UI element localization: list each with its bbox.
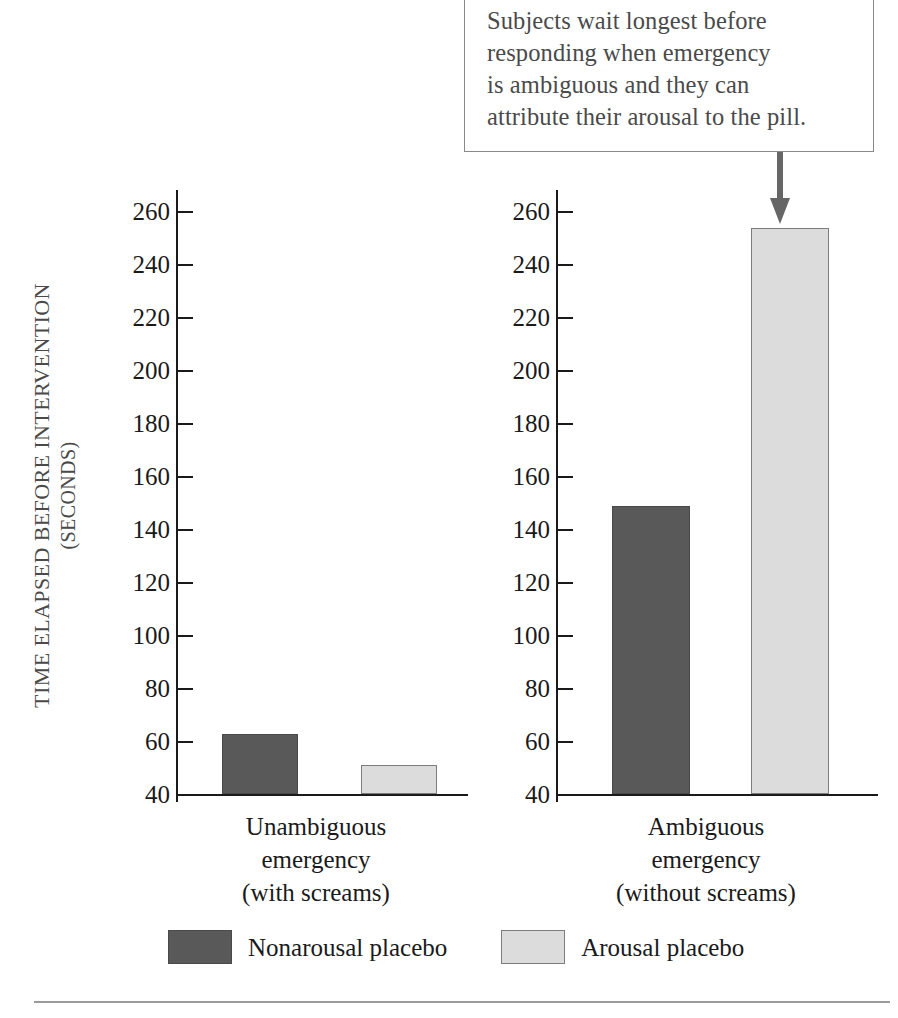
y-axis-spine-right [556, 190, 558, 802]
y-tick-label-left-100: 100 [108, 623, 170, 648]
y-tick-label-right-180: 180 [488, 411, 550, 436]
y-tick-left-60 [178, 741, 193, 743]
y-tick-label-right-120: 120 [488, 570, 550, 595]
y-axis-title-units: (SECONDS) [57, 216, 80, 776]
x-axis-baseline-left [176, 794, 468, 796]
x-category-line-2: emergency [166, 843, 466, 876]
chart-legend: Nonarousal placebo Arousal placebo [168, 930, 744, 964]
legend-swatch-arousal-placebo [501, 930, 565, 964]
legend-swatch-nonarousal-placebo [168, 930, 232, 964]
x-category-line-1: Ambiguous [556, 810, 856, 843]
y-axis-title-main: TIME ELAPSED BEFORE INTERVENTION [29, 216, 55, 776]
y-tick-left-160 [178, 476, 193, 478]
y-tick-right-60 [558, 741, 573, 743]
y-tick-right-180 [558, 423, 573, 425]
y-tick-right-200 [558, 370, 573, 372]
y-tick-label-right-60: 60 [488, 729, 550, 754]
x-category-line-2: emergency [556, 843, 856, 876]
y-tick-right-240 [558, 264, 573, 266]
y-axis-spine-left [176, 190, 178, 802]
chart-panel-ambiguous: 260 240 220 200 180 160 140 120 100 80 6… [488, 185, 878, 805]
y-tick-right-160 [558, 476, 573, 478]
x-category-line-3: (with screams) [166, 876, 466, 909]
y-tick-label-left-80: 80 [108, 676, 170, 701]
y-tick-left-100 [178, 635, 193, 637]
legend-label-arousal-placebo: Arousal placebo [581, 935, 744, 960]
y-tick-label-left-140: 140 [108, 517, 170, 542]
y-tick-label-right-160: 160 [488, 464, 550, 489]
annotation-line-2: responding when emergency [487, 37, 857, 69]
y-tick-label-left-260: 260 [108, 199, 170, 224]
bar-ambiguous-nonarousal-placebo [612, 506, 690, 794]
x-axis-baseline-right [556, 794, 878, 796]
y-tick-label-left-40: 40 [108, 782, 170, 807]
y-tick-right-80 [558, 688, 573, 690]
y-tick-left-80 [178, 688, 193, 690]
y-tick-label-left-200: 200 [108, 358, 170, 383]
legend-item-nonarousal-placebo: Nonarousal placebo [168, 930, 447, 964]
annotation-line-3: is ambiguous and they can [487, 69, 857, 101]
y-tick-right-100 [558, 635, 573, 637]
y-tick-label-left-180: 180 [108, 411, 170, 436]
y-tick-left-180 [178, 423, 193, 425]
bar-ambiguous-arousal-placebo [751, 228, 829, 794]
y-tick-right-140 [558, 529, 573, 531]
x-category-label-unambiguous: Unambiguous emergency (with screams) [166, 810, 466, 909]
y-tick-label-left-220: 220 [108, 305, 170, 330]
y-tick-left-140 [178, 529, 193, 531]
y-tick-label-right-260: 260 [488, 199, 550, 224]
legend-item-arousal-placebo: Arousal placebo [501, 930, 744, 964]
x-category-line-3: (without screams) [556, 876, 856, 909]
y-tick-right-220 [558, 317, 573, 319]
y-tick-label-right-40: 40 [488, 782, 550, 807]
y-tick-label-left-160: 160 [108, 464, 170, 489]
x-category-line-1: Unambiguous [166, 810, 466, 843]
footer-divider [34, 1001, 890, 1003]
y-tick-left-260 [178, 211, 193, 213]
y-tick-left-120 [178, 582, 193, 584]
annotation-callout-box: Subjects wait longest before responding … [464, 0, 874, 152]
y-tick-left-200 [178, 370, 193, 372]
y-tick-label-right-220: 220 [488, 305, 550, 330]
y-tick-label-left-120: 120 [108, 570, 170, 595]
annotation-line-1: Subjects wait longest before [487, 5, 857, 37]
y-tick-label-right-100: 100 [488, 623, 550, 648]
y-tick-label-right-200: 200 [488, 358, 550, 383]
y-tick-label-left-240: 240 [108, 252, 170, 277]
y-tick-left-220 [178, 317, 193, 319]
y-tick-right-260 [558, 211, 573, 213]
y-tick-label-right-80: 80 [488, 676, 550, 701]
y-tick-label-right-240: 240 [488, 252, 550, 277]
x-category-label-ambiguous: Ambiguous emergency (without screams) [556, 810, 856, 909]
y-tick-right-120 [558, 582, 573, 584]
chart-panel-unambiguous: 260 240 220 200 180 160 140 120 100 80 6… [108, 185, 468, 805]
y-axis-title: TIME ELAPSED BEFORE INTERVENTION (SECOND… [29, 216, 80, 776]
bar-unambiguous-arousal-placebo [361, 765, 437, 794]
legend-label-nonarousal-placebo: Nonarousal placebo [248, 935, 447, 960]
annotation-line-4: attribute their arousal to the pill. [487, 101, 857, 133]
bar-unambiguous-nonarousal-placebo [222, 734, 298, 794]
y-tick-label-right-140: 140 [488, 517, 550, 542]
y-tick-left-240 [178, 264, 193, 266]
y-tick-label-left-60: 60 [108, 729, 170, 754]
